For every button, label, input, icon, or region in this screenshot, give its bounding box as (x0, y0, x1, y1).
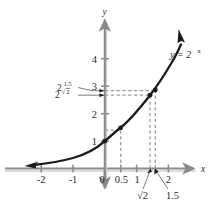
curve-equation-label: y = 2 x (169, 47, 202, 60)
point-sqrt2 (148, 93, 153, 98)
x-tick-label-half: 0.5 (115, 174, 128, 185)
point-half (118, 125, 123, 130)
exponential-graph-figure: -2 -1 0 0.5 1 2 1 2 3 4 x y 2 1.5 2 √ 2 (0, 0, 217, 212)
x-tick-labels: -2 -1 0 0.5 1 2 (37, 174, 171, 185)
x-tick-label-one: 1 (134, 174, 139, 185)
y-axis (105, 20, 107, 188)
point-0-1 (102, 139, 107, 144)
annotation-pow-sqrt2: 2 √ 2 (55, 88, 70, 101)
y-tick-label-one: 1 (92, 136, 97, 147)
y-tick-label-four: 4 (92, 54, 98, 65)
leader-pow-onefive (78, 88, 103, 91)
point-onefive (153, 88, 158, 93)
y-tick-label-two: 2 (92, 109, 97, 120)
x-callout-sqrt2: √2 (137, 190, 148, 201)
y-tick-label-three: 3 (92, 81, 97, 92)
x-axis (5, 169, 196, 172)
leader-sqrt2-tick (143, 171, 150, 189)
pow-onefive-exponent: 1.5 (63, 80, 72, 87)
y-tick-labels: 1 2 3 4 (92, 54, 98, 148)
pow-sqrt2-radical: √ (61, 88, 65, 95)
y-axis-name: y (101, 7, 107, 17)
x-callout-onefive: 1.5 (166, 190, 179, 201)
x-tick-label-neg2: -2 (37, 174, 46, 185)
pow-sqrt2-base: 2 (55, 90, 60, 100)
curve-equation-text: y = 2 (169, 49, 191, 60)
x-tick-label-two: 2 (166, 174, 171, 185)
guide-lines (105, 91, 155, 169)
graph-canvas: -2 -1 0 0.5 1 2 1 2 3 4 x y 2 1.5 2 √ 2 (0, 0, 217, 212)
x-tick-label-neg1: -1 (69, 174, 78, 185)
x-axis-name: x (200, 164, 206, 174)
curve-equation-exponent: x (198, 47, 202, 54)
x-tick-label-zero: 0 (99, 174, 104, 185)
